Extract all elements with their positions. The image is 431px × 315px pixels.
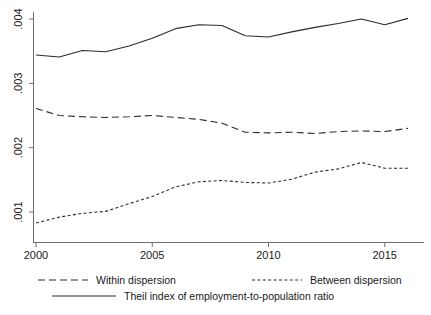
chart-figure: .001.002.003.004 2000200520102015 Within… [0, 0, 431, 315]
line-chart: .001.002.003.004 2000200520102015 Within… [0, 0, 431, 315]
x-tick-label: 2015 [373, 249, 397, 261]
legend-label: Theil index of employment-to-population … [124, 290, 334, 302]
y-tick-label: .002 [12, 137, 24, 158]
y-tick-label: .003 [12, 73, 24, 94]
legend-label: Between dispersion [310, 274, 402, 286]
x-tick-label: 2000 [24, 249, 48, 261]
x-tick-label: 2010 [256, 249, 280, 261]
x-tick-label: 2005 [140, 249, 164, 261]
chart-background [0, 0, 431, 315]
legend-label: Within dispersion [96, 274, 176, 286]
y-tick-label: .004 [12, 8, 24, 29]
y-tick-label: .001 [12, 201, 24, 222]
